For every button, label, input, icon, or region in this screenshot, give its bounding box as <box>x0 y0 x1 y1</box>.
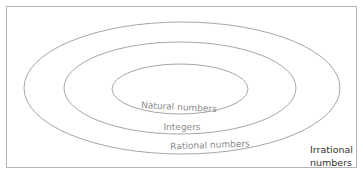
integers-label: Integers <box>163 122 200 132</box>
irrational-numbers-label: Irrational numbers <box>310 143 353 169</box>
integers-ellipse <box>64 42 296 134</box>
irrational-label-line2: numbers <box>310 156 353 169</box>
irrational-label-line1: Irrational <box>310 143 353 156</box>
